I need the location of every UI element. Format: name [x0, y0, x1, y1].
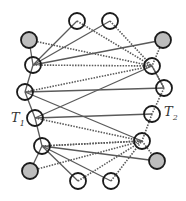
graph-canvas — [0, 0, 186, 201]
dotted-edge-L3-R3 — [42, 141, 142, 146]
label-t2: T2 — [164, 104, 178, 122]
solid-edge-T1-R1 — [35, 66, 152, 118]
dotted-edge-bl-R3 — [30, 141, 142, 171]
node-br — [149, 153, 165, 169]
label-t1-main: T — [11, 110, 20, 125]
dotted-edge-T2-R3 — [142, 114, 152, 141]
bipartite-graph-diagram: T1 T2 — [0, 0, 186, 201]
solid-edge-T1-T2 — [35, 114, 152, 118]
label-t1: T1 — [11, 110, 25, 128]
node-tr — [155, 32, 171, 48]
node-tl — [21, 32, 37, 48]
dotted-edge-L2-R1 — [25, 66, 152, 92]
node-bl — [22, 163, 38, 179]
solid-edge-L1-tr — [33, 40, 163, 65]
dotted-edge-L1-R1 — [33, 65, 152, 66]
solid-edge-R1-R2 — [152, 66, 164, 88]
label-t1-sub: 1 — [20, 119, 25, 128]
dotted-edge-T1-R3 — [35, 118, 142, 141]
dotted-edge-bot1-R3 — [78, 141, 142, 181]
label-t2-main: T — [164, 104, 173, 119]
label-t2-sub: 2 — [173, 113, 178, 122]
